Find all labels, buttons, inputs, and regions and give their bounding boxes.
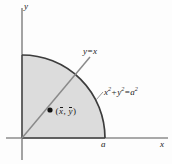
x-axis-tick-label-a: a <box>101 140 106 149</box>
line-equation-label: y=x <box>83 47 97 56</box>
circle-rhs-exponent: 2 <box>135 86 138 92</box>
y-axis-label: y <box>24 2 28 11</box>
centroid-point <box>47 107 52 112</box>
centroid-close-paren: ) <box>73 106 77 116</box>
circle-label-leader <box>96 92 103 100</box>
circle-equation-label: x2+y2=a2 <box>104 86 138 97</box>
centroid-x-bar: x <box>59 107 63 116</box>
shaded-quarter-disk-region <box>22 55 105 138</box>
centroid-y-bar: y <box>69 107 73 116</box>
figure-container: y x a y=x x2+y2=a2 (x, y) <box>0 0 172 164</box>
x-axis-label: x <box>160 140 164 149</box>
quarter-disk-figure <box>0 0 172 164</box>
line-rhs: x <box>93 46 97 56</box>
centroid-coordinates-label: (x, y) <box>55 107 77 116</box>
